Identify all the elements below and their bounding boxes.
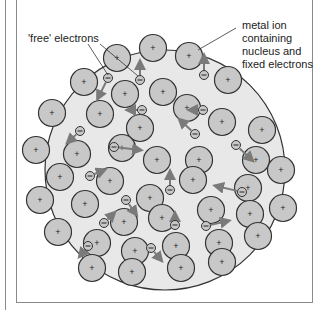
plus-sign-icon: + — [216, 238, 221, 248]
metal-ion: + — [150, 79, 177, 106]
free-electron — [84, 242, 93, 251]
plus-sign-icon: + — [37, 195, 42, 205]
plus-sign-icon: + — [89, 263, 94, 273]
metal-ion: + — [64, 141, 91, 168]
metal-ion: + — [39, 100, 66, 127]
plus-sign-icon: + — [147, 193, 152, 203]
free-electron — [202, 222, 211, 231]
free-electron — [191, 130, 200, 139]
free-electron — [136, 76, 145, 85]
metal-ion: + — [249, 117, 276, 144]
plus-sign-icon: + — [121, 217, 126, 227]
metal-ion-label: metal ion containing nucleus and fixed e… — [242, 19, 313, 71]
metal-ion: + — [168, 255, 195, 282]
metal-ion: + — [119, 259, 146, 286]
plus-sign-icon: + — [178, 263, 183, 273]
plus-sign-icon: + — [184, 103, 189, 113]
metal-ion: + — [243, 147, 270, 174]
plus-sign-icon: + — [129, 267, 134, 277]
free-electron — [200, 71, 209, 80]
metal-ion: + — [270, 195, 297, 222]
metal-ion: + — [87, 101, 114, 128]
plus-sign-icon: + — [219, 257, 224, 267]
plus-sign-icon: + — [137, 123, 142, 133]
free-electron — [232, 141, 241, 150]
plus-sign-icon: + — [154, 155, 159, 165]
plus-sign-icon: + — [55, 227, 60, 237]
plus-sign-icon: + — [33, 145, 38, 155]
metal-ion: + — [27, 187, 54, 214]
plus-sign-icon: + — [255, 231, 260, 241]
plus-sign-icon: + — [259, 125, 264, 135]
plus-sign-icon: + — [150, 43, 155, 53]
metal-ion-label-line-2: containing — [242, 32, 313, 45]
metal-ion: + — [235, 175, 262, 202]
metal-ion: + — [144, 147, 171, 174]
plus-sign-icon: + — [225, 75, 230, 85]
metal-ion: + — [180, 167, 207, 194]
leader-line — [198, 28, 236, 50]
free-electron — [171, 221, 180, 230]
metal-ion-label-line-1: metal ion — [242, 19, 313, 32]
free-electron — [166, 186, 175, 195]
plus-sign-icon: + — [122, 89, 127, 99]
metal-ion: + — [111, 209, 138, 236]
plus-sign-icon: + — [57, 172, 62, 182]
metal-ion: + — [174, 95, 201, 122]
metal-ion: + — [198, 197, 225, 224]
metal-ion-label-line-3: nucleus and — [242, 45, 313, 58]
plus-sign-icon: + — [247, 209, 252, 219]
plus-sign-icon: + — [160, 87, 165, 97]
metal-ion: + — [71, 69, 98, 96]
metal-ion: + — [215, 67, 242, 94]
plus-sign-icon: + — [219, 117, 224, 127]
metal-ion: + — [209, 109, 236, 136]
plus-sign-icon: + — [278, 165, 283, 175]
plus-sign-icon: + — [190, 175, 195, 185]
free-electron — [100, 219, 109, 228]
free-electron — [138, 106, 147, 115]
plus-sign-icon: + — [159, 213, 164, 223]
free-electron — [199, 106, 208, 115]
plus-sign-icon: + — [186, 51, 191, 61]
metal-ion-label-line-4: fixed electrons — [242, 58, 313, 71]
metal-ion: + — [23, 137, 50, 164]
metal-ion: + — [209, 249, 236, 276]
free-electron — [76, 127, 85, 136]
plus-sign-icon: + — [253, 155, 258, 165]
free-electron — [110, 143, 119, 152]
plus-sign-icon: + — [49, 108, 54, 118]
free-electron — [122, 196, 131, 205]
free-electron — [238, 188, 247, 197]
plus-sign-icon: + — [173, 241, 178, 251]
metal-ion: + — [72, 191, 99, 218]
plus-sign-icon: + — [74, 149, 79, 159]
plus-sign-icon: + — [196, 155, 201, 165]
metal-ion: + — [268, 157, 295, 184]
free-electrons-label: 'free' electrons — [28, 32, 99, 45]
plus-sign-icon: + — [97, 109, 102, 119]
metal-ion: + — [176, 43, 203, 70]
metal-ion: + — [79, 255, 106, 282]
free-electron — [86, 172, 95, 181]
plus-sign-icon: + — [82, 199, 87, 209]
metal-ion: + — [47, 164, 74, 191]
free-electron — [147, 244, 156, 253]
metal-ion: + — [112, 81, 139, 108]
metal-ion: + — [45, 219, 72, 246]
plus-sign-icon: + — [132, 246, 137, 256]
plus-sign-icon: + — [81, 77, 86, 87]
metal-ion: + — [245, 223, 272, 250]
plus-sign-icon: + — [280, 203, 285, 213]
metal-ion: + — [140, 35, 167, 62]
plus-sign-icon: + — [107, 176, 112, 186]
plus-sign-icon: + — [208, 205, 213, 215]
plus-sign-icon: + — [94, 238, 99, 248]
